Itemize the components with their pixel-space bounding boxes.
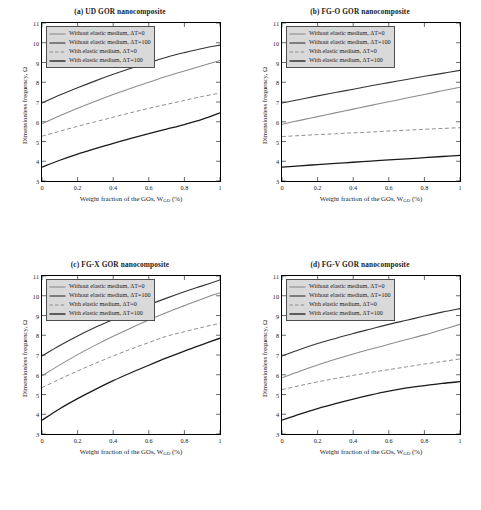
- series-line: [282, 70, 460, 103]
- legend-label: With elastic medium, ΔT=100: [309, 310, 383, 316]
- y-tick-label: 4: [276, 411, 279, 418]
- panel-b-xlabel: Weight fraction of the GOs, WGO (%): [281, 195, 461, 203]
- x-tick-label: 0.4: [349, 184, 357, 191]
- legend-label: Without elastic medium, ΔT=0: [69, 30, 144, 36]
- y-tick-label: 11: [273, 20, 279, 27]
- y-tick-label: 9: [276, 59, 279, 66]
- legend-row: With elastic medium, ΔT=0: [289, 300, 391, 309]
- panel-d-xlabel: Weight fraction of the GOs, WGO (%): [281, 448, 461, 456]
- legend-row: With elastic medium, ΔT=100: [49, 309, 151, 318]
- legend-line-sample-icon: [289, 283, 306, 291]
- y-tick-label: 8: [276, 79, 279, 86]
- y-tick-label: 4: [36, 411, 39, 418]
- legend-label: With elastic medium, ΔT=100: [69, 310, 143, 316]
- panel-a: (a) UD GOR nanocomposite 3456789101100.2…: [0, 0, 240, 255]
- legend-label: Without elastic medium, ΔT=0: [69, 283, 144, 289]
- panel-c-legend: Without elastic medium, ΔT=0Without elas…: [46, 279, 155, 321]
- y-tick-label: 10: [33, 292, 39, 299]
- panel-c-xlabel: Weight fraction of the GOs, WGO (%): [41, 448, 221, 456]
- legend-line-sample-icon: [49, 57, 66, 65]
- legend-line-sample-icon: [49, 292, 66, 300]
- panel-a-xlabel: Weight fraction of the GOs, WGO (%): [41, 195, 221, 203]
- legend-row: With elastic medium, ΔT=0: [49, 47, 151, 56]
- x-tick-label: 0.2: [314, 184, 322, 191]
- y-tick-label: 6: [36, 371, 39, 378]
- legend-line-sample-icon: [289, 48, 306, 56]
- legend-row: With elastic medium, ΔT=100: [289, 56, 391, 65]
- y-tick-label: 4: [276, 158, 279, 165]
- series-line: [282, 382, 460, 421]
- x-tick-label: 0.2: [314, 437, 322, 444]
- y-tick-label: 5: [36, 138, 39, 145]
- panel-b-ylabel: Dimensionless frequency, Ω: [261, 26, 268, 186]
- series-line: [42, 113, 220, 167]
- legend-row: With elastic medium, ΔT=100: [49, 56, 151, 65]
- y-tick-label: 3: [36, 178, 39, 185]
- legend-line-sample-icon: [289, 301, 306, 309]
- y-tick-label: 11: [273, 273, 279, 280]
- y-tick-label: 5: [276, 138, 279, 145]
- x-tick-label: 0.6: [145, 184, 153, 191]
- panel-a-ylabel: Dimensionless frequency, Ω: [21, 26, 28, 186]
- x-tick-label: 0.8: [421, 437, 429, 444]
- figure-canvas: (a) UD GOR nanocomposite 3456789101100.2…: [0, 0, 481, 510]
- legend-line-sample-icon: [289, 30, 306, 38]
- y-tick-label: 7: [276, 352, 279, 359]
- legend-label: Without elastic medium, ΔT=100: [309, 39, 391, 45]
- x-tick-label: 0.4: [109, 437, 117, 444]
- series-line: [282, 87, 460, 124]
- legend-row: With elastic medium, ΔT=0: [289, 47, 391, 56]
- legend-row: With elastic medium, ΔT=100: [289, 309, 391, 318]
- legend-label: Without elastic medium, ΔT=0: [309, 283, 384, 289]
- x-tick-label: 0.6: [385, 437, 393, 444]
- y-tick-label: 6: [36, 118, 39, 125]
- x-tick-label: 1: [218, 437, 221, 444]
- x-tick-label: 0.8: [181, 184, 189, 191]
- panel-c: (c) FG-X GOR nanocomposite 3456789101100…: [0, 253, 240, 508]
- panel-b-title: (b) FG-O GOR nanocomposite: [240, 7, 480, 16]
- x-tick-label: 0.6: [385, 184, 393, 191]
- legend-row: Without elastic medium, ΔT=100: [289, 38, 391, 47]
- legend-line-sample-icon: [49, 30, 66, 38]
- y-tick-label: 9: [36, 59, 39, 66]
- legend-row: Without elastic medium, ΔT=0: [49, 29, 151, 38]
- legend-label: Without elastic medium, ΔT=100: [69, 292, 151, 298]
- x-tick-label: 1: [458, 437, 461, 444]
- series-line: [42, 61, 220, 124]
- series-line: [282, 128, 460, 137]
- legend-row: Without elastic medium, ΔT=0: [49, 282, 151, 291]
- x-tick-label: 0.6: [145, 437, 153, 444]
- x-tick-label: 0.4: [349, 437, 357, 444]
- legend-row: Without elastic medium, ΔT=100: [49, 291, 151, 300]
- series-line: [282, 324, 460, 377]
- legend-row: Without elastic medium, ΔT=0: [289, 29, 391, 38]
- series-line: [282, 155, 460, 167]
- y-tick-label: 10: [33, 39, 39, 46]
- panel-c-ylabel: Dimensionless frequency, Ω: [21, 279, 28, 439]
- x-tick-label: 0.2: [74, 437, 82, 444]
- y-tick-label: 3: [276, 178, 279, 185]
- y-tick-label: 10: [273, 39, 279, 46]
- series-line: [42, 323, 220, 387]
- legend-label: Without elastic medium, ΔT=100: [309, 292, 391, 298]
- y-tick-label: 3: [36, 431, 39, 438]
- legend-row: Without elastic medium, ΔT=100: [49, 38, 151, 47]
- x-tick-label: 0: [280, 184, 283, 191]
- y-tick-label: 7: [276, 99, 279, 106]
- legend-line-sample-icon: [49, 301, 66, 309]
- y-tick-label: 11: [33, 273, 39, 280]
- legend-row: Without elastic medium, ΔT=0: [289, 282, 391, 291]
- legend-row: With elastic medium, ΔT=0: [49, 300, 151, 309]
- y-tick-label: 5: [36, 391, 39, 398]
- x-tick-label: 0: [40, 437, 43, 444]
- y-tick-label: 6: [276, 118, 279, 125]
- legend-label: With elastic medium, ΔT=0: [309, 48, 377, 54]
- legend-line-sample-icon: [49, 48, 66, 56]
- y-tick-label: 8: [36, 332, 39, 339]
- y-tick-label: 3: [276, 431, 279, 438]
- legend-line-sample-icon: [49, 310, 66, 318]
- x-tick-label: 1: [218, 184, 221, 191]
- y-tick-label: 5: [276, 391, 279, 398]
- legend-label: With elastic medium, ΔT=0: [69, 301, 137, 307]
- x-tick-label: 0.2: [74, 184, 82, 191]
